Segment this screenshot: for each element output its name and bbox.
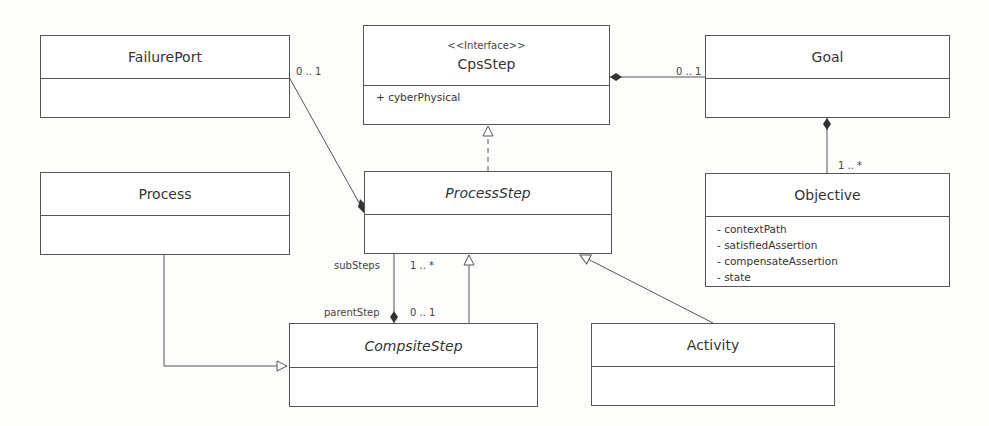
role-label: subSteps [334, 260, 380, 271]
multiplicity-label: 0 .. 1 [676, 66, 701, 77]
composition-diamond-icon [823, 118, 831, 130]
composition-diamond-icon [610, 73, 622, 81]
attribute: - satisfiedAssertion [717, 237, 838, 253]
multiplicity-label: 1 .. * [410, 260, 434, 271]
class-processstep[interactable]: ProcessStep [364, 171, 612, 254]
class-name: Process [138, 186, 191, 202]
class-failureport[interactable]: FailurePort [40, 35, 290, 118]
multiplicity-label: 0 .. 1 [296, 66, 321, 77]
processstep-compsite-association [390, 253, 398, 323]
class-cpsstep[interactable]: <<Interface>> CpsStep + cyberPhysical [363, 25, 610, 125]
failureport-processstep-association [289, 77, 366, 213]
multiplicity-label: 0 .. 1 [410, 307, 435, 318]
class-goal[interactable]: Goal [705, 35, 950, 118]
class-name: Activity [687, 337, 739, 353]
attribute: + cyberPhysical [376, 90, 460, 104]
role-label: parentStep [324, 307, 380, 318]
class-name: CpsStep [458, 56, 516, 72]
class-compsitestep[interactable]: CompsiteStep [289, 323, 538, 407]
attribute-list: - contextPath - satisfiedAssertion - com… [717, 221, 838, 285]
class-activity[interactable]: Activity [591, 323, 835, 406]
multiplicity-label: 1 .. * [838, 160, 862, 171]
attribute-list: + cyberPhysical [376, 90, 460, 104]
stereotype-label: <<Interface>> [447, 40, 525, 51]
attribute: - state [717, 269, 838, 285]
class-name: Goal [812, 49, 844, 65]
activity-generalization [580, 255, 713, 323]
class-objective[interactable]: Objective - contextPath - satisfiedAsser… [705, 173, 950, 287]
class-name: ProcessStep [445, 185, 531, 201]
composition-diamond-icon [390, 311, 398, 323]
class-process[interactable]: Process [40, 172, 290, 255]
class-name: FailurePort [128, 49, 202, 65]
class-name: Objective [794, 187, 860, 203]
goal-objective-association [823, 117, 831, 173]
attribute: - contextPath [717, 221, 838, 237]
attribute: - compensateAssertion [717, 253, 838, 269]
class-name: CompsiteStep [364, 338, 462, 354]
process-generalization [164, 254, 287, 366]
